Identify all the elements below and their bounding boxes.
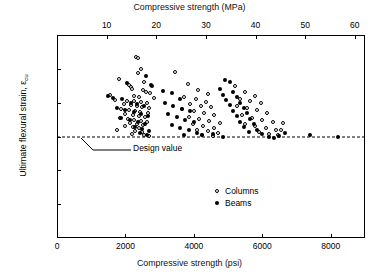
data-point-beams: [223, 78, 227, 82]
data-point-beams: [123, 108, 127, 112]
annotation-leader-line: [79, 136, 139, 158]
data-point-beams: [308, 133, 312, 137]
data-point-columns: [212, 126, 216, 130]
data-point-columns: [133, 129, 137, 133]
data-point-columns: [173, 70, 177, 74]
legend: Columns Beams: [215, 185, 259, 209]
data-point-columns: [136, 56, 140, 60]
data-point-columns: [119, 107, 123, 111]
top-tick: [305, 35, 306, 39]
x-tick: [262, 234, 263, 238]
x-tick: [331, 234, 332, 238]
y-tick: [57, 170, 61, 171]
data-point-beams: [145, 133, 149, 137]
data-point-columns: [259, 101, 263, 105]
data-point-beams: [180, 107, 184, 111]
data-point-columns: [196, 88, 200, 92]
data-point-columns: [202, 111, 206, 115]
data-point-beams: [178, 126, 182, 130]
data-point-columns: [209, 105, 213, 109]
data-point-beams: [136, 120, 140, 124]
data-point-columns: [271, 120, 275, 124]
data-point-columns: [240, 113, 244, 117]
data-point-beams: [171, 104, 175, 108]
data-point-beams: [187, 128, 191, 132]
data-point-columns: [206, 92, 210, 96]
filled-circle-icon: [215, 201, 219, 205]
data-point-beams: [125, 81, 129, 85]
data-point-beams: [183, 118, 187, 122]
data-point-beams: [142, 104, 146, 108]
top-tick: [206, 35, 207, 39]
data-point-columns: [115, 128, 119, 132]
data-point-columns: [248, 99, 252, 103]
legend-item-beams: Beams: [215, 197, 259, 209]
data-point-beams: [163, 101, 167, 105]
data-point-beams: [272, 136, 276, 140]
data-point-beams: [231, 109, 235, 113]
data-point-beams: [144, 74, 148, 78]
data-point-beams: [170, 123, 174, 127]
data-point-columns: [142, 80, 146, 84]
top-tick: [156, 35, 157, 39]
data-point-columns: [264, 126, 268, 130]
data-point-columns: [281, 121, 285, 125]
data-point-columns: [218, 121, 222, 125]
x-tick-label: 6000: [253, 241, 272, 251]
data-point-columns: [233, 84, 237, 88]
data-point-beams: [235, 114, 239, 118]
data-point-beams: [211, 132, 215, 136]
top-tick-label: 60: [350, 20, 359, 30]
x-tick-label: 4000: [184, 241, 203, 251]
data-point-beams: [267, 135, 271, 139]
data-point-beams: [161, 89, 165, 93]
x-axis-title: Compressive strength (psi): [0, 258, 379, 268]
data-point-beams: [119, 116, 123, 120]
data-point-columns: [182, 95, 186, 99]
x-tick-label: 8000: [321, 241, 340, 251]
top-tick: [355, 35, 356, 39]
y-tick: [57, 69, 61, 70]
data-point-columns: [212, 113, 216, 117]
design-value-annotation: Design value: [133, 143, 182, 153]
data-point-beams: [132, 110, 136, 114]
data-point-columns: [207, 119, 211, 123]
data-point-columns: [117, 77, 121, 81]
data-point-beams: [135, 102, 139, 106]
data-point-beams: [252, 122, 256, 126]
y-axis-title-main: Ultimate flexural strain,: [18, 85, 28, 177]
data-point-beams: [238, 120, 242, 124]
data-point-beams: [235, 95, 239, 99]
data-point-beams: [120, 97, 124, 101]
data-point-columns: [130, 87, 134, 91]
data-point-beams: [200, 133, 204, 137]
data-point-columns: [137, 95, 141, 99]
y-tick: [57, 103, 61, 104]
data-point-beams: [166, 112, 170, 116]
top-tick: [107, 35, 108, 39]
data-point-columns: [197, 117, 201, 121]
data-point-columns: [187, 115, 191, 119]
data-point-beams: [138, 131, 142, 135]
top-tick-label: 20: [152, 20, 161, 30]
legend-item-columns: Columns: [215, 185, 259, 197]
data-point-beams: [224, 98, 228, 102]
data-point-columns: [152, 96, 156, 100]
data-point-columns: [136, 71, 140, 75]
data-point-columns: [123, 112, 127, 116]
y-tick: [57, 204, 61, 205]
data-point-beams: [146, 114, 150, 118]
data-point-columns: [139, 67, 143, 71]
x-tick-label: 0: [55, 241, 60, 251]
x-tick: [194, 234, 195, 238]
data-point-beams: [245, 111, 249, 115]
data-point-beams: [255, 128, 259, 132]
data-point-beams: [283, 131, 287, 135]
data-point-beams: [221, 135, 225, 139]
top-tick-label: 40: [251, 20, 260, 30]
data-point-beams: [221, 93, 225, 97]
data-point-beams: [115, 106, 119, 110]
data-point-columns: [245, 106, 249, 110]
data-point-columns: [147, 106, 151, 110]
data-point-beams: [228, 103, 232, 107]
